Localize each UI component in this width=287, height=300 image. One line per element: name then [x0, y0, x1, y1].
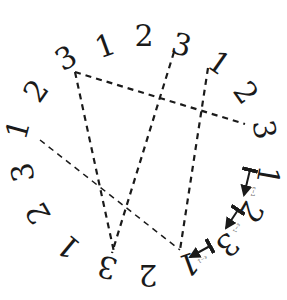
strand-label: 3: [4, 160, 42, 185]
chord-diagram-svg: ε−1ε−1ε−1123123123123123123: [0, 0, 287, 300]
strand-label: 1: [174, 245, 204, 284]
strand-label: 1: [250, 163, 287, 188]
strand-label: 1: [202, 43, 238, 83]
strand-label: 2: [138, 258, 157, 293]
strand-label: 2: [18, 196, 58, 230]
strand-label: 3: [209, 225, 246, 264]
arrow-label: ε−1: [250, 186, 258, 197]
arrow-label: ε−1: [232, 222, 243, 234]
chord-line: [180, 68, 208, 250]
strand-label: 2: [226, 75, 266, 111]
diagram-canvas: ε−1ε−1ε−1123123123123123123: [0, 0, 287, 300]
strand-label: 3: [168, 25, 196, 64]
strand-label: 3: [94, 248, 122, 287]
strand-label: 1: [0, 116, 37, 144]
chord-line: [75, 72, 114, 252]
strand-label: 1: [50, 227, 87, 266]
arrow-icon: [244, 170, 250, 195]
strand-label: 2: [16, 73, 56, 109]
strand-label: 2: [134, 18, 153, 53]
strand-label: 3: [246, 117, 284, 142]
chord-line: [112, 52, 174, 253]
strand-label: 1: [90, 26, 120, 65]
